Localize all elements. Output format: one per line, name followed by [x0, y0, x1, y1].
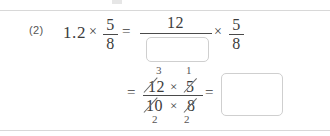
decimal-operand: 1.2: [63, 23, 86, 43]
cancel-mark-above-5: 1: [186, 64, 192, 76]
denominator-multiply-sign: ×: [170, 98, 178, 114]
equals-sign-3: =: [205, 84, 214, 101]
cancel-mark-above-12: 3: [156, 64, 162, 76]
numerator-term-1: 12: [148, 78, 165, 96]
multiply-sign-2: ×: [214, 24, 223, 40]
cancel-mark-below-8: 2: [184, 113, 190, 125]
equals-sign-1: =: [122, 23, 131, 40]
fraction-denominator: 8: [229, 36, 244, 51]
problem-number: (2): [29, 24, 43, 36]
cancel-mark-below-10: 2: [152, 113, 158, 125]
fraction-five-eighths-left: 5 8: [103, 17, 118, 51]
bottom-divider: [0, 130, 330, 131]
fraction-five-eighths-right: 5 8: [229, 17, 244, 51]
multiply-sign-1: ×: [89, 24, 98, 40]
answer-box-denominator[interactable]: [146, 37, 209, 62]
equals-sign-2: =: [127, 84, 136, 101]
fraction-denominator: 8: [103, 36, 118, 51]
fraction-numerator: 5: [229, 17, 244, 32]
answer-box-final[interactable]: [221, 73, 283, 116]
big-fraction-bar: [140, 33, 212, 34]
top-divider: [0, 10, 330, 11]
fraction-numerator: 5: [103, 17, 118, 32]
worksheet-panel: (2) 1.2 × 5 8 = 12 × 5 8 = 3 1 12 × 5 10…: [0, 0, 330, 136]
numerator-multiply-sign: ×: [170, 79, 178, 95]
clipped-mark-above: [112, 0, 122, 4]
big-fraction-numerator: 12: [167, 14, 184, 32]
